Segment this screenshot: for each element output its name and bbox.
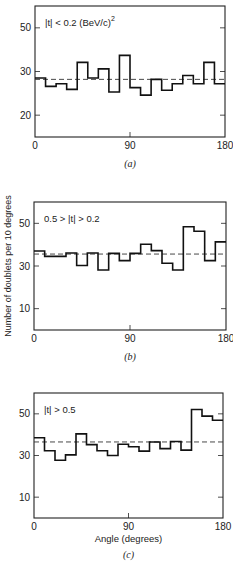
panel-annotation: |t| > 0.5 xyxy=(44,404,76,415)
panel-caption: (c) xyxy=(123,549,135,561)
panel-annotation: |t| < 0.2 (BeV/c)2 xyxy=(45,15,115,28)
y-tick-label: 20 xyxy=(20,110,32,121)
y-tick-label: 50 xyxy=(19,408,31,419)
x-tick-label: 90 xyxy=(123,521,135,532)
histogram-steps xyxy=(34,227,226,270)
figure: 503020090180|t| < 0.2 (BeV/c)2(a)5030100… xyxy=(0,0,233,565)
x-tick-label: 90 xyxy=(124,140,136,151)
y-tick-label: 10 xyxy=(19,303,31,314)
panel-c: 503010090180|t| > 0.5Angle (degrees)(c) xyxy=(19,393,232,561)
panel-annotation: 0.5 > |t| > 0.2 xyxy=(44,213,100,224)
x-tick-label: 90 xyxy=(124,333,136,344)
x-axis-label: Angle (degrees) xyxy=(95,533,163,544)
y-tick-label: 50 xyxy=(20,22,32,33)
y-tick-label: 30 xyxy=(19,450,31,461)
histogram-steps xyxy=(34,409,223,460)
y-tick-label: 30 xyxy=(20,66,32,77)
x-tick-label: 180 xyxy=(215,521,232,532)
x-tick-label: 0 xyxy=(31,333,37,344)
histogram-steps xyxy=(35,55,225,95)
panel-a: 503020090180|t| < 0.2 (BeV/c)2(a) xyxy=(20,6,233,170)
panel-caption: (b) xyxy=(124,351,136,363)
y-tick-label: 30 xyxy=(19,261,31,272)
x-tick-label: 180 xyxy=(217,140,233,151)
panel-caption: (a) xyxy=(124,158,136,170)
y-axis-label: Number of doublets per 10 degrees xyxy=(3,191,15,341)
panel-b: 5030100901800.5 > |t| > 0.2(b) xyxy=(19,202,233,363)
x-tick-label: 0 xyxy=(32,140,38,151)
x-tick-label: 180 xyxy=(218,333,233,344)
y-tick-label: 10 xyxy=(19,492,31,503)
y-tick-label: 50 xyxy=(19,218,31,229)
x-tick-label: 0 xyxy=(31,521,37,532)
